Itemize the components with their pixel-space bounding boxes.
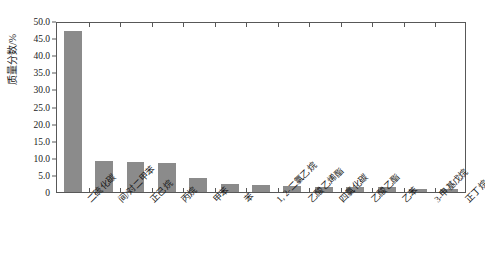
y-tick-label: 40.0	[33, 51, 50, 61]
x-tick-mark-top	[152, 23, 153, 27]
y-tick-label: 5.0	[38, 171, 50, 181]
bar	[252, 185, 270, 192]
x-tick-label: 乙酸乙烯酯	[305, 196, 314, 205]
x-tick-mark	[309, 188, 310, 192]
y-tick-label: 25.0	[33, 103, 50, 113]
x-tick-label: 正己烷	[147, 196, 156, 205]
x-tick-mark	[372, 188, 373, 192]
y-tick-label: 50.0	[33, 17, 50, 27]
x-tick-mark-top	[341, 23, 342, 27]
x-tick-mark-top	[89, 23, 90, 27]
x-tick-mark-top	[372, 23, 373, 27]
x-tick-label: 正丁烷	[462, 196, 471, 205]
x-tick-label: 1, 2-二氯乙烷	[273, 196, 282, 205]
x-tick-mark-top	[246, 23, 247, 27]
x-tick-label: 丙烷	[178, 196, 187, 205]
bar-cell	[340, 23, 371, 192]
bar-cell	[434, 23, 465, 192]
x-tick-label: 乙酸乙酯	[368, 196, 377, 205]
x-tick-mark-top	[404, 23, 405, 27]
bar-cell	[183, 23, 214, 192]
bar-chart: 质量分数/% 05.010.015.020.025.030.035.040.04…	[0, 0, 485, 270]
x-tick-label: 苯	[241, 196, 250, 205]
x-tick-label: 乙苯	[399, 196, 408, 205]
x-axis-labels: 二硫化碳间/对二甲苯正己烷丙烷甲苯苯1, 2-二氯乙烷乙酸乙烯酯四氯化碳乙酸乙酯…	[56, 196, 466, 268]
bars-layer	[57, 23, 465, 192]
y-tick-label: 35.0	[33, 68, 50, 78]
x-tick-mark-top	[215, 23, 216, 27]
x-tick-mark-top	[183, 23, 184, 27]
x-tick-label: 间/对二甲苯	[115, 196, 124, 205]
bar-cell	[57, 23, 88, 192]
x-tick-mark-top	[435, 23, 436, 27]
bar-cell	[371, 23, 402, 192]
x-tick-mark-top	[278, 23, 279, 27]
bar-cell	[245, 23, 276, 192]
x-tick-label: 3-甲基戊烷	[431, 196, 440, 205]
plot-area	[56, 22, 466, 193]
x-tick-label: 甲苯	[210, 196, 219, 205]
x-tick-mark-top	[120, 23, 121, 27]
bar	[64, 31, 82, 192]
y-axis-ticks: 05.010.015.020.025.030.035.040.045.050.0	[0, 22, 56, 193]
bar-cell	[151, 23, 182, 192]
x-tick-mark-top	[309, 23, 310, 27]
x-tick-mark	[435, 188, 436, 192]
bar-cell	[214, 23, 245, 192]
y-tick-label: 45.0	[33, 34, 50, 44]
y-tick-label: 30.0	[33, 85, 50, 95]
y-tick-label: 0	[45, 188, 50, 198]
y-tick-label: 20.0	[33, 120, 50, 130]
x-tick-label: 四氯化碳	[336, 196, 345, 205]
bar-cell	[402, 23, 433, 192]
y-tick-label: 15.0	[33, 137, 50, 147]
x-tick-label: 二硫化碳	[84, 196, 93, 205]
bar-cell	[88, 23, 119, 192]
y-tick-label: 10.0	[33, 154, 50, 164]
